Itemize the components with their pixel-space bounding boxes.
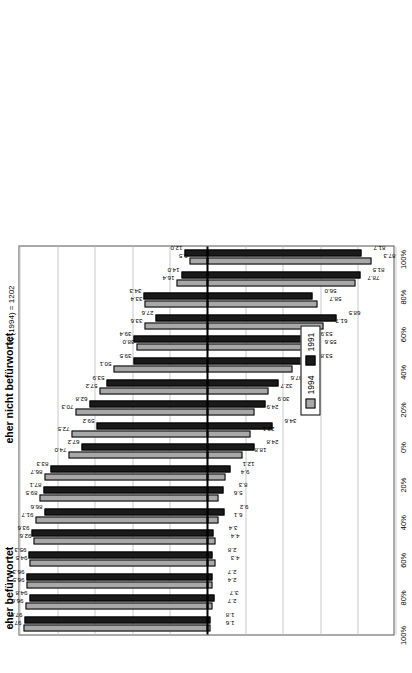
bar-value-label: 12.1	[242, 460, 254, 466]
bar-1991-pro	[50, 465, 207, 472]
bar-value-label: 93.6	[17, 524, 29, 530]
bar-value-label: 61.7	[335, 317, 347, 323]
bar-value-label: 72.5	[57, 424, 69, 430]
bar-1994-pro	[29, 559, 207, 566]
bar-value-label: 56.0	[324, 287, 336, 293]
bar-value-label: 1.6	[225, 619, 234, 625]
bar-value-label: 86.7	[30, 468, 42, 474]
bar-1991-pro	[133, 357, 207, 364]
bar-1991-contra	[207, 271, 360, 278]
bar-value-label: 68.5	[348, 309, 360, 315]
bar-value-label: 74.0	[54, 446, 66, 452]
axis-tick: 60%	[398, 552, 407, 567]
bar-1994-contra	[207, 494, 218, 501]
bar-1991-contra	[207, 314, 336, 321]
bar-value-label: 9.2	[240, 503, 249, 509]
bar-1991-contra	[207, 357, 308, 364]
bar-value-label: 2.7	[227, 567, 236, 573]
bar-1994-pro	[23, 624, 207, 631]
bar-1994-pro	[25, 602, 207, 609]
bar-value-label: 53.9	[92, 373, 104, 379]
bar-value-label: 8.3	[238, 481, 247, 487]
bar-value-label: 97.6	[9, 611, 21, 617]
bar-value-label: 59.2	[82, 416, 94, 422]
axis-caption-contra: eher nicht befürwortet	[2, 332, 14, 443]
bar-value-label: 3.4	[229, 524, 238, 530]
bar-value-label: 6.1	[234, 511, 243, 517]
bar-1994-contra	[207, 279, 355, 286]
axis-tick: 100%	[398, 249, 407, 268]
bar-1991-pro	[29, 594, 207, 601]
bar-value-label: 53.9	[320, 330, 332, 336]
bar-value-label: 12.0	[170, 244, 182, 250]
bar-1994-pro	[68, 451, 207, 458]
bar-1994-pro	[176, 279, 207, 286]
bar-value-label: 1.8	[226, 611, 235, 617]
bar-1994-contra	[207, 430, 250, 437]
bar-1991-contra	[207, 443, 254, 450]
bar-1991-pro	[106, 379, 207, 386]
bar-1991-pro	[43, 486, 207, 493]
bar-1994-pro	[189, 257, 207, 264]
bar-value-label: 34.3	[128, 287, 140, 293]
bar-value-label: 92.6	[19, 532, 31, 538]
bar-value-label: 30.9	[277, 395, 289, 401]
legend-swatch-1994	[305, 398, 315, 408]
bar-1994-pro	[33, 537, 207, 544]
bar-1991-pro	[143, 292, 207, 299]
chart-figure: eher befürwortet eher nicht befürwortet …	[0, 0, 412, 673]
bar-1991-pro	[24, 616, 207, 623]
bar-1994-contra	[207, 257, 371, 264]
bar-value-label: 81.7	[373, 244, 385, 250]
bar-1991-contra	[207, 465, 230, 472]
legend-swatch-1991	[305, 355, 315, 365]
bar-value-label: 24.8	[266, 438, 278, 444]
bar-1994-pro	[44, 473, 207, 480]
bar-value-label: 83.3	[36, 460, 48, 466]
bar-value-label: 87.3	[383, 252, 395, 258]
plot-area: 97.71.697.61.896.62.794.83.796.52.496.32…	[18, 245, 394, 635]
axis-tick: 20%	[398, 477, 407, 492]
bar-value-label: 16.4	[162, 274, 174, 280]
bar-value-label: 33.6	[130, 317, 142, 323]
bar-value-label: 34.6	[284, 416, 296, 422]
bar-1994-pro	[35, 516, 207, 523]
bar-value-label: 57.2	[85, 381, 97, 387]
bar-1991-contra	[207, 379, 278, 386]
bar-1991-pro	[133, 335, 207, 342]
bar-1994-pro	[39, 494, 207, 501]
bar-1991-pro	[181, 271, 207, 278]
bar-value-label: 67.2	[67, 438, 79, 444]
legend-label-1991: 1991	[305, 332, 315, 351]
bar-1994-pro	[136, 343, 207, 350]
axis-tick: 40%	[398, 515, 407, 530]
bar-1991-contra	[207, 486, 223, 493]
bar-1991-pro	[28, 551, 207, 558]
bar-1991-pro	[44, 508, 207, 515]
bar-value-label: 58.7	[329, 295, 341, 301]
axis-tick: 20%	[398, 402, 407, 417]
bar-value-label: 24.9	[266, 403, 278, 409]
bar-value-label: 2.8	[228, 546, 237, 552]
bar-1994-contra	[207, 408, 254, 415]
bar-1991-contra	[207, 335, 308, 342]
bar-value-label: 23.1	[262, 424, 274, 430]
bar-value-label: 5.6	[233, 489, 242, 495]
legend-item-1991: 1991	[305, 332, 315, 365]
bar-1994-pro	[113, 365, 207, 372]
bar-1994-pro	[144, 300, 207, 307]
bar-1994-contra	[207, 300, 317, 307]
bar-1991-contra	[207, 400, 265, 407]
bar-value-label: 96.3	[12, 567, 24, 573]
bar-value-label: 95.3	[14, 546, 26, 552]
bar-1991-pro	[155, 314, 207, 321]
axis-tick-labels: 100%80%60%40%20%0%20%40%60%80%100%	[398, 245, 412, 635]
bar-1994-contra	[207, 343, 312, 350]
axis-tick: 40%	[398, 364, 407, 379]
bar-1994-pro	[26, 581, 207, 588]
bar-1991-pro	[81, 443, 207, 450]
bar-value-label: 27.6	[141, 309, 153, 315]
axis-tick: 80%	[398, 289, 407, 304]
chart-legend: 1994 1991	[300, 325, 320, 415]
legend-item-1994: 1994	[305, 375, 315, 408]
